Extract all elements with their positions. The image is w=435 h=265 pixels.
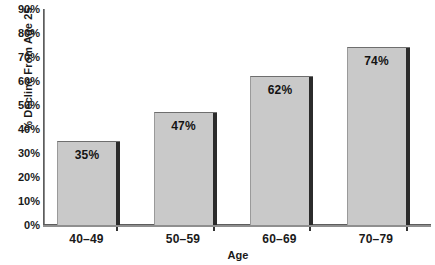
y-tick-label: 90% bbox=[12, 4, 40, 15]
y-tick-label: 70% bbox=[12, 52, 40, 63]
y-tick-label: 60% bbox=[12, 76, 40, 87]
x-category-label: 40–49 bbox=[47, 232, 127, 246]
y-tick-label: 40% bbox=[12, 124, 40, 135]
x-category-label: 70–79 bbox=[336, 232, 416, 246]
bar-shadow bbox=[213, 113, 217, 225]
x-axis-tick bbox=[309, 227, 311, 231]
bar-value-label: 62% bbox=[251, 83, 309, 97]
x-axis-title: Age bbox=[45, 249, 431, 261]
bar: 35% bbox=[57, 141, 120, 225]
bar-shadow bbox=[116, 142, 120, 225]
bar-value-label: 35% bbox=[58, 148, 116, 162]
bar-shadow bbox=[406, 48, 410, 225]
x-axis-tick bbox=[406, 227, 408, 231]
y-axis-tick-labels: 0%10%20%30%40%50%60%70%80%90% bbox=[10, 0, 40, 265]
y-tick-label: 10% bbox=[12, 196, 40, 207]
bar: 47% bbox=[154, 112, 217, 225]
x-axis-tick bbox=[213, 227, 215, 231]
plot-area: 35%47%62%74% bbox=[45, 9, 431, 225]
bar-shadow bbox=[309, 77, 313, 225]
bar: 62% bbox=[250, 76, 313, 225]
y-tick-label: 0% bbox=[12, 220, 40, 231]
bar-value-label: 47% bbox=[155, 119, 213, 133]
y-tick-label: 50% bbox=[12, 100, 40, 111]
bar-value-label: 74% bbox=[348, 54, 406, 68]
y-tick-label: 20% bbox=[12, 172, 40, 183]
y-tick-label: 80% bbox=[12, 28, 40, 39]
y-tick-label: 30% bbox=[12, 148, 40, 159]
x-category-label: 50–59 bbox=[143, 232, 223, 246]
bar-chart: % Decline From Age 25 0%10%20%30%40%50%6… bbox=[0, 0, 435, 265]
bar: 74% bbox=[347, 47, 410, 225]
x-category-label: 60–69 bbox=[240, 232, 320, 246]
x-axis-tick bbox=[116, 227, 118, 231]
